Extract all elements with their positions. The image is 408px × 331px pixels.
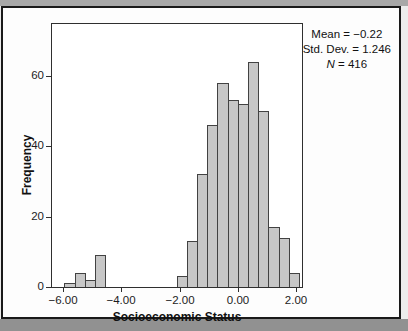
x-tick-mark [121, 288, 122, 292]
plot-frame-top [51, 23, 303, 24]
histogram-bar [289, 273, 300, 288]
stats-std-dev: Std. Dev. = 1.246 [303, 42, 391, 57]
histogram-bar [95, 255, 106, 288]
x-tick-mark [180, 288, 181, 292]
y-tick-label: 0 [14, 280, 44, 292]
y-tick-label: 20 [14, 210, 44, 222]
x-axis-line [51, 287, 303, 288]
stats-box: Mean = −0.22 Std. Dev. = 1.246 N = 416 [303, 27, 391, 72]
y-axis-line [51, 23, 52, 288]
stats-n-value: = 416 [335, 58, 367, 70]
stats-n: N = 416 [303, 57, 391, 72]
x-tick-label: −2.00 [158, 294, 202, 306]
x-tick-label: 0.00 [216, 294, 260, 306]
x-axis-title: Socioeconomic Status [51, 310, 303, 324]
scanned-figure: Frequency −6.00−4.00−2.000.002.000204060… [0, 0, 408, 331]
x-tick-mark [238, 288, 239, 292]
y-tick-label: 60 [14, 69, 44, 81]
x-tick-label: 2.00 [274, 294, 318, 306]
stats-n-symbol: N [327, 58, 335, 70]
figure-border-box: Frequency −6.00−4.00−2.000.002.000204060… [1, 6, 401, 319]
x-tick-label: −4.00 [99, 294, 143, 306]
stats-mean: Mean = −0.22 [303, 27, 391, 42]
y-tick-label: 40 [14, 139, 44, 151]
x-tick-mark [63, 288, 64, 292]
x-tick-mark [296, 288, 297, 292]
histogram-plot-area: −6.00−4.00−2.000.002.000204060 Socioecon… [51, 23, 303, 288]
x-tick-label: −6.00 [41, 294, 85, 306]
